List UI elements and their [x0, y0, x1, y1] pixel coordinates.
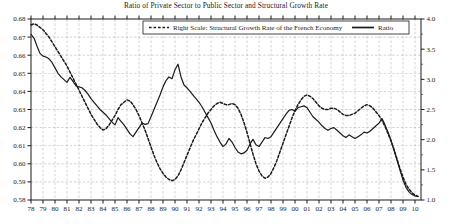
ytick-label-left: 0.67 [13, 34, 26, 42]
xtick-label: 99 [280, 205, 288, 213]
xtick-label: 78 [28, 205, 36, 213]
xtick-label: 04 [340, 205, 348, 213]
xtick-label: 89 [160, 205, 168, 213]
xtick-label: 85 [112, 205, 120, 213]
ytick-label-right: 2.0 [427, 136, 436, 144]
xtick-label: 93 [208, 205, 216, 213]
ytick-label-left: 0.65 [13, 70, 26, 78]
xtick-label: 88 [148, 205, 156, 213]
xtick-label: 10 [412, 205, 420, 213]
xtick-label: 96 [244, 205, 252, 213]
chart-plot: 0.580.590.600.610.620.630.640.650.660.67… [0, 0, 452, 224]
ytick-label-left: 0.61 [13, 142, 26, 150]
ytick-label-left: 0.66 [13, 52, 26, 60]
ytick-label-right: 3.0 [427, 76, 436, 84]
xtick-label: 83 [88, 205, 96, 213]
xtick-label: 08 [388, 205, 396, 213]
ytick-label-right: 1.5 [427, 166, 436, 174]
xtick-label: 84 [100, 205, 108, 213]
xtick-label: 01 [304, 205, 312, 213]
ytick-label-left: 0.62 [13, 124, 26, 132]
xtick-label: 03 [328, 205, 336, 213]
ytick-label-left: 0.63 [13, 106, 26, 114]
xtick-label: 02 [316, 205, 324, 213]
ytick-label-left: 0.58 [13, 196, 26, 204]
series-line-1 [31, 34, 418, 196]
ytick-label-right: 4.0 [427, 15, 436, 23]
xtick-label: 91 [184, 205, 192, 213]
xtick-label: 98 [268, 205, 276, 213]
chart-container: Ratio of Private Sector to Public Sector… [0, 0, 452, 224]
xtick-label: 86 [124, 205, 132, 213]
xtick-label: 97 [256, 205, 264, 213]
series-line-2 [31, 24, 418, 197]
xtick-label: 87 [136, 205, 144, 213]
xtick-label: 00 [292, 205, 300, 213]
legend-label-growth-rate: Right Scale: Structural Growth Rate of t… [173, 24, 343, 32]
ytick-label-left: 0.59 [13, 178, 26, 186]
xtick-label: 81 [64, 205, 72, 213]
ytick-label-left: 0.64 [13, 88, 26, 96]
xtick-label: 06 [364, 205, 372, 213]
ytick-label-left: 0.60 [13, 160, 26, 168]
xtick-label: 90 [172, 205, 180, 213]
xtick-label: 05 [352, 205, 360, 213]
ytick-label-right: 2.5 [427, 106, 436, 114]
xtick-label: 92 [196, 205, 204, 213]
xtick-label: 09 [400, 205, 408, 213]
xtick-label: 79 [40, 205, 48, 213]
ytick-label-right: 1.0 [427, 196, 436, 204]
xtick-label: 80 [52, 205, 60, 213]
ytick-label-right: 3.5 [427, 46, 436, 54]
xtick-label: 95 [232, 205, 240, 213]
xtick-label: 07 [376, 205, 384, 213]
ytick-label-left: 0.68 [13, 15, 26, 23]
legend-label-ratio: Ratio [378, 24, 394, 32]
xtick-label: 82 [76, 205, 84, 213]
xtick-label: 94 [220, 205, 228, 213]
